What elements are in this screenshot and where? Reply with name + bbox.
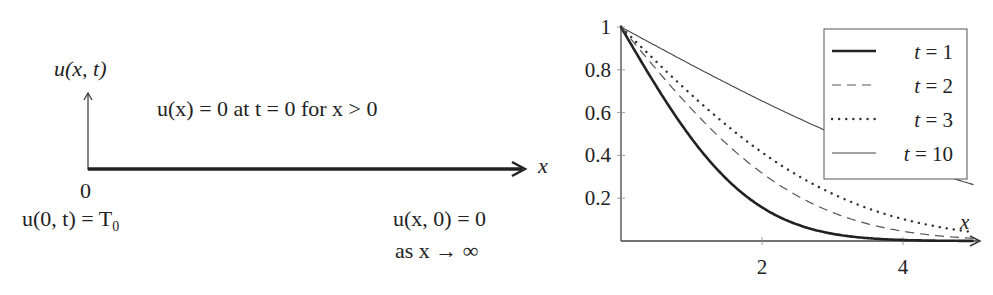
chart-legend: t = 1t = 2t = 3t = 10 xyxy=(824,29,967,179)
legend-label: t = 1 xyxy=(914,40,953,64)
y-tick-label: 0.8 xyxy=(585,58,611,82)
chart: 0.20.40.60.8124x t = 1t = 2t = 3t = 10 xyxy=(0,0,993,295)
y-tick-label: 0.6 xyxy=(585,101,611,125)
y-tick-label: 0.4 xyxy=(585,143,612,167)
legend-label: t = 10 xyxy=(904,142,953,166)
y-tick-label: 0.2 xyxy=(585,186,611,210)
x-tick-label: 2 xyxy=(757,255,768,279)
legend-label: t = 2 xyxy=(914,74,953,98)
y-tick-label: 1 xyxy=(601,15,612,39)
x-tick-label: 4 xyxy=(898,255,909,279)
legend-label: t = 3 xyxy=(914,108,953,132)
